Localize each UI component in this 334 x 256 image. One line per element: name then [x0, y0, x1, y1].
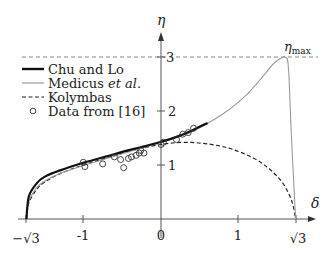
y-axis	[158, 32, 164, 238]
y-tick-label-2: 2	[168, 104, 176, 119]
data-point-circle-icon	[100, 161, 106, 167]
chart: −√3 -1 0 1 √3 1 2 3 η δ ηmax Chu and Lo …	[0, 0, 334, 256]
x-axis-arrow-icon	[308, 216, 316, 222]
chu-and-lo-curve	[26, 123, 207, 219]
data-point-circle-icon	[118, 157, 124, 163]
x-axis-label: δ	[311, 195, 319, 211]
data-points-group	[80, 125, 196, 170]
x-tick-label-0: 0	[157, 228, 165, 243]
legend-label-data: Data from [16]	[48, 104, 145, 119]
x-tick-label-neg1: -1	[77, 228, 90, 243]
legend: Chu and Lo Medicus et al. Kolymbas Data …	[22, 62, 145, 119]
data-point-circle-icon	[121, 165, 127, 171]
x-tick-label-neg-sqrt3: −√3	[12, 231, 39, 246]
eta-max-label: ηmax	[284, 39, 311, 56]
legend-label-kolymbas: Kolymbas	[48, 90, 112, 105]
y-axis-arrow-icon	[158, 32, 164, 41]
x-axis	[18, 216, 316, 222]
y-tick-label-3: 3	[166, 50, 174, 65]
legend-label-medicus: Medicus et al.	[48, 76, 141, 91]
legend-swatch-data-circle-icon	[30, 108, 36, 114]
y-axis-label: η	[157, 12, 166, 28]
x-tick-label-1: 1	[234, 228, 242, 243]
x-tick-label-sqrt3: √3	[290, 231, 307, 246]
y-tick-label-1: 1	[168, 158, 176, 173]
legend-label-chu-and-lo: Chu and Lo	[48, 62, 124, 77]
